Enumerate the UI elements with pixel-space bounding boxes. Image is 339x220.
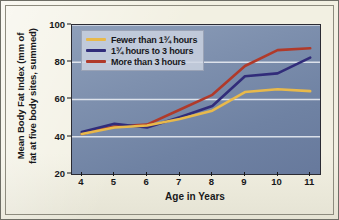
x-tick-mark-4: [81, 172, 82, 176]
y-axis-title: Mean Body Fat Index (mm of fat at five b…: [9, 15, 43, 177]
x-tick-label-7: 7: [176, 176, 181, 187]
y-axis-title-line1: Mean Body Fat Index (mm of: [15, 33, 26, 160]
legend-label-fewer-than: Fewer than 1¾ hours: [111, 35, 197, 45]
y-tick-label-60: 60: [54, 93, 65, 104]
plot-area: Fewer than 1¾ hours 1¾ hours to 3 hours …: [71, 24, 321, 175]
y-axis-tick-labels: 100 80 60 40 20: [41, 1, 67, 220]
y-tick-label-40: 40: [54, 131, 65, 142]
x-axis-title: Age in Years: [71, 191, 319, 202]
x-axis-tick-labels: 4567891011: [71, 176, 319, 190]
x-tick-label-4: 4: [78, 176, 83, 187]
x-tick-label-10: 10: [271, 176, 282, 187]
legend-label-more-than: More than 3 hours: [111, 57, 186, 67]
y-tick-label-100: 100: [49, 19, 65, 30]
legend-item-more-than: More than 3 hours: [86, 56, 197, 67]
legend-swatch-yellow: [86, 38, 106, 41]
x-tick-mark-8: [211, 172, 212, 176]
y-tick-label-20: 20: [54, 168, 65, 179]
y-axis-title-line2: fat at five body sites, summed): [26, 28, 37, 164]
x-tick-label-6: 6: [143, 176, 148, 187]
x-tick-mark-11: [309, 172, 310, 176]
x-tick-mark-10: [277, 172, 278, 176]
x-tick-label-9: 9: [241, 176, 246, 187]
x-tick-label-11: 11: [304, 176, 314, 187]
legend-item-mid-range: 1¾ hours to 3 hours: [86, 45, 197, 56]
legend-label-mid-range: 1¾ hours to 3 hours: [111, 46, 193, 56]
x-tick-mark-9: [244, 172, 245, 176]
legend-item-fewer-than: Fewer than 1¾ hours: [86, 34, 197, 45]
legend: Fewer than 1¾ hours 1¾ hours to 3 hours …: [81, 30, 204, 71]
x-tick-mark-7: [179, 172, 180, 176]
x-tick-label-8: 8: [209, 176, 214, 187]
legend-swatch-navy: [86, 49, 106, 52]
x-tick-mark-5: [113, 172, 114, 176]
x-tick-mark-6: [146, 172, 147, 176]
legend-swatch-red: [86, 60, 106, 63]
y-tick-label-80: 80: [54, 56, 65, 67]
chart-figure: Mean Body Fat Index (mm of fat at five b…: [0, 0, 339, 220]
x-tick-label-5: 5: [111, 176, 116, 187]
